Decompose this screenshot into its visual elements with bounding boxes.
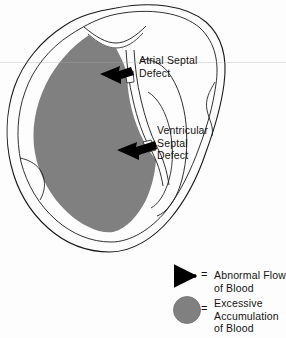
legend-equals-sign-accumulation: = [201, 302, 207, 314]
ventricular-septal-defect-label: Ventricular Septal Defect [157, 124, 208, 162]
legend-excessive-accumulation-circle-icon [174, 297, 201, 324]
legend-label-excessive-accumulation: Excessive Accumulation of Blood [214, 297, 279, 335]
atrial-septal-defect-label: Atrial Septal Defect [139, 54, 198, 79]
heart-defect-diagram: Atrial Septal Defect Ventricular Septal … [0, 0, 286, 338]
legend-equals-sign-flow: = [201, 268, 207, 280]
legend-label-abnormal-flow: Abnormal Flow of Blood [214, 269, 286, 294]
